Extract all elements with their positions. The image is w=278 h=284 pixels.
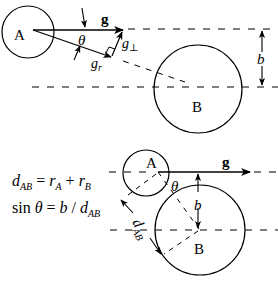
bottom-label-dab: dAB <box>127 216 153 242</box>
bottom-dab-extension-a <box>124 174 156 198</box>
bottom-dab-arrow-lower <box>150 238 161 254</box>
top-circle-b <box>154 45 242 133</box>
bottom-dab-extension-b <box>164 231 198 254</box>
top-dashed-gr-extension <box>123 61 185 82</box>
top-label-theta: θ <box>78 32 86 48</box>
bottom-label-b-param: b <box>194 197 202 213</box>
top-panel: A B g θ gr g⊥ b <box>2 6 278 133</box>
equation-sine: sin θ = b / dAB <box>12 199 100 219</box>
top-vector-gperp-arrow <box>112 32 122 56</box>
top-label-b: B <box>192 99 202 115</box>
collision-diagram: A B g θ gr g⊥ b dAB = rA + rB sin θ = b … <box>0 0 278 284</box>
equations: dAB = rA + rB sin θ = b / dAB <box>12 172 100 219</box>
top-label-b-param: b <box>257 51 265 67</box>
top-circle-a <box>2 6 54 58</box>
top-angle-arrow-upper <box>82 8 85 27</box>
top-label-gr: gr <box>91 56 102 73</box>
top-label-a: A <box>14 27 25 43</box>
bottom-panel: A B g θ b dAB <box>109 150 278 275</box>
bottom-label-a: A <box>146 155 157 171</box>
equation-distance: dAB = rA + rB <box>12 172 91 192</box>
svg-text:dAB: dAB <box>127 216 153 242</box>
top-label-gperp: g⊥ <box>122 36 138 53</box>
top-angle-arrow-lower <box>74 46 80 60</box>
bottom-dashed-center-line <box>158 172 199 229</box>
bottom-label-b: B <box>194 241 204 257</box>
top-label-g: g <box>101 11 109 27</box>
bottom-label-g: g <box>222 154 230 170</box>
bottom-label-theta: θ <box>171 178 179 194</box>
bottom-dab-arrow-upper <box>121 200 133 213</box>
top-vector-gr-arrow <box>33 30 111 57</box>
